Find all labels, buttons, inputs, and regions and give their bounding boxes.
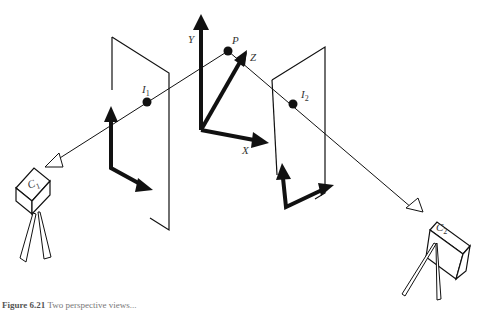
label-point-p: P [232, 35, 239, 46]
image-point-i2 [289, 100, 298, 109]
label-i1-sub: 1 [146, 89, 150, 98]
image-plane-left [112, 37, 169, 230]
caption-text: Two perspective views... [47, 300, 136, 310]
label-image-point-i2: I2 [301, 89, 309, 103]
label-c2-sub: 2 [443, 227, 447, 236]
image-axes-left [104, 106, 153, 192]
figure-caption: Figure 6.21 Two perspective views... [2, 300, 137, 310]
image-point-i1 [143, 98, 152, 107]
label-camera-2: C2 [436, 222, 447, 236]
label-image-point-i1: I1 [142, 84, 150, 98]
label-z-axis: Z [250, 52, 256, 63]
point-p [224, 47, 233, 56]
label-i2-sub: 2 [305, 94, 309, 103]
world-axes [193, 14, 269, 148]
caption-prefix: Figure 6.21 [2, 300, 45, 310]
label-x-axis: X [242, 145, 249, 156]
label-y-axis: Y [188, 34, 194, 45]
